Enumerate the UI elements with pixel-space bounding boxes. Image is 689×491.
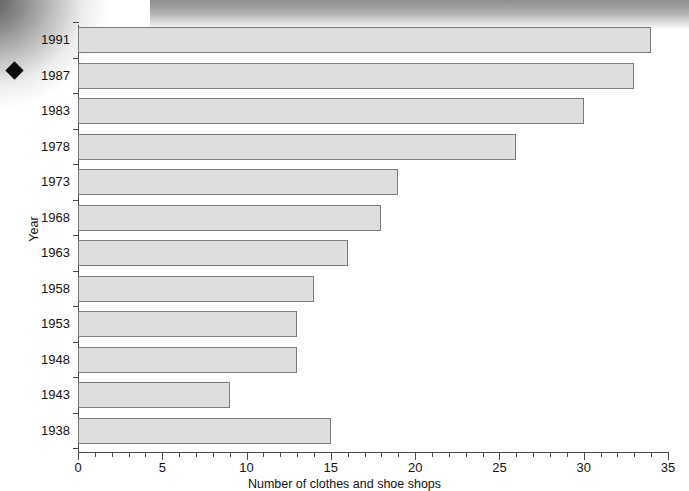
y-axis-tick: [73, 164, 79, 165]
year-tick-label: 1987: [10, 63, 70, 89]
x-axis-tick-minor: [95, 453, 96, 457]
y-axis-tick: [73, 306, 79, 307]
x-axis-tick-minor: [297, 453, 298, 457]
x-axis-tick-major: [162, 453, 163, 460]
bar-row: [78, 347, 297, 373]
year-tick-label: 1978: [10, 134, 70, 160]
bar-row: [78, 276, 314, 302]
y-axis-tick: [73, 342, 79, 343]
y-axis-tick: [73, 377, 79, 378]
x-axis-tick-minor: [432, 453, 433, 457]
x-axis-tick-minor: [634, 453, 635, 457]
x-axis-title: Number of clothes and shoe shops: [0, 477, 689, 491]
x-axis-tick-label: 30: [564, 460, 604, 475]
bar: [78, 382, 230, 408]
year-tick-label: 1991: [10, 27, 70, 53]
bar: [78, 134, 516, 160]
year-tick-label: 1943: [10, 382, 70, 408]
x-axis-tick-minor: [601, 453, 602, 457]
x-axis-tick-minor: [449, 453, 450, 457]
x-axis-tick-minor: [550, 453, 551, 457]
x-axis-tick-label: 5: [142, 460, 182, 475]
x-axis-tick-minor: [466, 453, 467, 457]
bar-row: [78, 311, 297, 337]
x-axis-tick-minor: [314, 453, 315, 457]
bar-row: [78, 27, 651, 53]
y-axis-tick: [73, 129, 79, 130]
x-axis-tick-label: 10: [227, 460, 267, 475]
x-axis-tick-label: 15: [311, 460, 351, 475]
bar-row: [78, 169, 398, 195]
x-axis-tick-label: 25: [479, 460, 519, 475]
bar-row: [78, 63, 634, 89]
x-axis-tick-minor: [280, 453, 281, 457]
x-axis-tick-minor: [516, 453, 517, 457]
year-tick-label: 1983: [10, 98, 70, 124]
bar: [78, 311, 297, 337]
x-axis-tick-minor: [196, 453, 197, 457]
x-axis-tick-label: 0: [58, 460, 98, 475]
y-axis-title: Year: [27, 189, 41, 269]
x-axis-tick-minor: [179, 453, 180, 457]
year-tick-label: 1958: [10, 276, 70, 302]
x-axis-tick-minor: [381, 453, 382, 457]
x-axis-tick-major: [78, 453, 79, 460]
bar-row: [78, 134, 516, 160]
x-axis-tick-major: [331, 453, 332, 460]
x-axis-tick-major: [415, 453, 416, 460]
x-axis-tick-minor: [348, 453, 349, 457]
year-tick-label: 1948: [10, 347, 70, 373]
bar: [78, 240, 348, 266]
x-axis-tick-minor: [112, 453, 113, 457]
x-axis-tick-label: 20: [395, 460, 435, 475]
bar: [78, 98, 584, 124]
year-tick-label: 1953: [10, 311, 70, 337]
bar-row: [78, 418, 331, 444]
x-axis-tick-minor: [533, 453, 534, 457]
x-axis-tick-minor: [213, 453, 214, 457]
y-axis-tick: [73, 413, 79, 414]
y-axis-tick: [73, 448, 79, 449]
y-axis-tick: [73, 93, 79, 94]
y-axis-tick: [73, 58, 79, 59]
bar: [78, 27, 651, 53]
x-axis-tick-minor: [651, 453, 652, 457]
x-axis-tick-label: 35: [648, 460, 688, 475]
bar: [78, 205, 381, 231]
bar: [78, 276, 314, 302]
x-axis-tick-minor: [263, 453, 264, 457]
x-axis-tick-minor: [567, 453, 568, 457]
x-axis-tick-minor: [230, 453, 231, 457]
x-axis-tick-minor: [145, 453, 146, 457]
x-axis-tick-minor: [129, 453, 130, 457]
bar: [78, 418, 331, 444]
x-axis-tick-major: [668, 453, 669, 460]
bar-row: [78, 382, 230, 408]
x-axis-tick-major: [584, 453, 585, 460]
bar-row: [78, 240, 348, 266]
x-axis-tick-minor: [398, 453, 399, 457]
bar: [78, 169, 398, 195]
bar-row: [78, 205, 381, 231]
y-axis-tick: [73, 200, 79, 201]
bar: [78, 63, 634, 89]
y-axis-tick: [73, 235, 79, 236]
x-axis-line: [78, 452, 669, 453]
y-axis-tick: [73, 271, 79, 272]
x-axis-tick-minor: [365, 453, 366, 457]
y-axis-tick: [73, 22, 79, 23]
x-axis-tick-major: [247, 453, 248, 460]
bar: [78, 347, 297, 373]
x-axis-tick-minor: [483, 453, 484, 457]
year-tick-label: 1938: [10, 418, 70, 444]
x-axis-tick-major: [499, 453, 500, 460]
bar-row: [78, 98, 584, 124]
x-axis-tick-minor: [617, 453, 618, 457]
